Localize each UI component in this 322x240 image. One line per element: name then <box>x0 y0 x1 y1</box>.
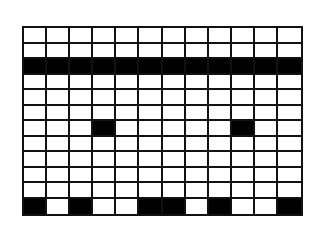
empty-cell <box>93 44 116 60</box>
empty-cell <box>232 199 255 215</box>
empty-cell <box>278 28 301 44</box>
empty-cell <box>232 168 255 184</box>
filled-cell <box>93 59 116 75</box>
empty-cell <box>186 199 209 215</box>
filled-cell <box>163 199 186 215</box>
empty-cell <box>209 183 232 199</box>
empty-cell <box>47 44 70 60</box>
empty-cell <box>93 168 116 184</box>
empty-cell <box>47 75 70 91</box>
empty-cell <box>139 121 162 137</box>
empty-cell <box>24 28 47 44</box>
empty-cell <box>255 121 278 137</box>
empty-cell <box>139 168 162 184</box>
empty-cell <box>255 44 278 60</box>
empty-cell <box>186 121 209 137</box>
empty-cell <box>232 28 255 44</box>
empty-cell <box>232 183 255 199</box>
empty-cell <box>163 137 186 153</box>
filled-cell <box>278 199 301 215</box>
empty-cell <box>209 152 232 168</box>
pattern-grid <box>22 26 303 216</box>
empty-cell <box>278 183 301 199</box>
empty-cell <box>163 75 186 91</box>
filled-cell <box>186 59 209 75</box>
empty-cell <box>47 183 70 199</box>
empty-cell <box>232 75 255 91</box>
empty-cell <box>24 90 47 106</box>
empty-cell <box>163 168 186 184</box>
empty-cell <box>70 137 93 153</box>
empty-cell <box>255 106 278 122</box>
filled-cell <box>70 59 93 75</box>
empty-cell <box>186 44 209 60</box>
filled-cell <box>116 59 139 75</box>
empty-cell <box>278 106 301 122</box>
empty-cell <box>47 137 70 153</box>
empty-cell <box>278 121 301 137</box>
empty-cell <box>209 121 232 137</box>
empty-cell <box>163 183 186 199</box>
empty-cell <box>70 121 93 137</box>
empty-cell <box>47 90 70 106</box>
empty-cell <box>209 137 232 153</box>
filled-cell <box>139 199 162 215</box>
empty-cell <box>47 168 70 184</box>
empty-cell <box>139 90 162 106</box>
empty-cell <box>163 121 186 137</box>
empty-cell <box>116 44 139 60</box>
empty-cell <box>255 199 278 215</box>
filled-cell <box>232 59 255 75</box>
filled-cell <box>278 59 301 75</box>
empty-cell <box>255 90 278 106</box>
empty-cell <box>93 106 116 122</box>
empty-cell <box>278 152 301 168</box>
empty-cell <box>116 168 139 184</box>
empty-cell <box>209 106 232 122</box>
filled-cell <box>70 199 93 215</box>
empty-cell <box>255 152 278 168</box>
empty-cell <box>186 152 209 168</box>
empty-cell <box>186 106 209 122</box>
empty-cell <box>116 90 139 106</box>
empty-cell <box>70 90 93 106</box>
empty-cell <box>24 75 47 91</box>
empty-cell <box>209 28 232 44</box>
empty-cell <box>93 137 116 153</box>
empty-cell <box>47 106 70 122</box>
empty-cell <box>186 137 209 153</box>
empty-cell <box>186 28 209 44</box>
empty-cell <box>116 121 139 137</box>
empty-cell <box>70 28 93 44</box>
empty-cell <box>116 137 139 153</box>
filled-cell <box>209 59 232 75</box>
empty-cell <box>70 168 93 184</box>
empty-cell <box>186 168 209 184</box>
empty-cell <box>232 106 255 122</box>
empty-cell <box>24 106 47 122</box>
empty-cell <box>93 152 116 168</box>
empty-cell <box>93 183 116 199</box>
empty-cell <box>24 44 47 60</box>
empty-cell <box>70 44 93 60</box>
empty-cell <box>232 152 255 168</box>
empty-cell <box>278 137 301 153</box>
empty-cell <box>116 183 139 199</box>
empty-cell <box>139 183 162 199</box>
empty-cell <box>209 90 232 106</box>
empty-cell <box>163 90 186 106</box>
empty-cell <box>70 183 93 199</box>
empty-cell <box>163 106 186 122</box>
empty-cell <box>70 75 93 91</box>
empty-cell <box>93 90 116 106</box>
empty-cell <box>70 106 93 122</box>
empty-cell <box>186 90 209 106</box>
empty-cell <box>24 152 47 168</box>
empty-cell <box>24 137 47 153</box>
empty-cell <box>24 183 47 199</box>
empty-cell <box>232 44 255 60</box>
empty-cell <box>255 183 278 199</box>
empty-cell <box>70 152 93 168</box>
empty-cell <box>209 168 232 184</box>
empty-cell <box>278 90 301 106</box>
